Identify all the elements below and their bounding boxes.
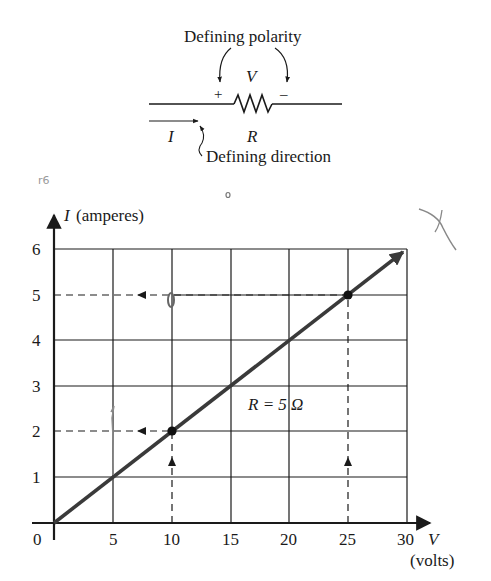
x-axis-symbol: V <box>428 530 441 549</box>
minus-sign: – <box>279 86 288 102</box>
x-tick-labels: 0 5 10 15 20 25 30 <box>33 530 414 549</box>
pencil-mark <box>168 293 174 307</box>
circuit-diagram: Defining polarity V + – I R Defining dir… <box>149 27 342 166</box>
x-tick-0: 0 <box>33 530 42 549</box>
y-tick-labels: 6 5 4 3 2 1 <box>32 240 41 487</box>
x-tick-15: 15 <box>222 530 239 549</box>
data-point-10v-2a <box>167 426 176 435</box>
polarity-arrow-left-icon <box>220 48 231 82</box>
y-axis-units: (amperes) <box>76 206 144 225</box>
current-symbol: I <box>167 127 175 146</box>
plus-sign: + <box>214 86 222 102</box>
resistor-symbol: R <box>246 127 258 146</box>
direction-label: Defining direction <box>206 147 332 166</box>
x-tick-30: 30 <box>397 530 414 549</box>
x-tick-25: 25 <box>339 530 356 549</box>
polarity-label: Defining polarity <box>184 27 302 46</box>
y-tick-4: 4 <box>32 331 41 350</box>
pencil-dot <box>226 193 230 198</box>
figure-canvas: Defining polarity V + – I R Defining dir… <box>0 0 491 581</box>
margin-scribble: r6 <box>38 174 50 187</box>
y-axis-symbol: I <box>63 206 71 225</box>
voltage-symbol: V <box>246 67 259 86</box>
data-point-25v-5a <box>343 290 352 299</box>
resistance-label: R = 5 Ω <box>247 395 303 414</box>
y-tick-3: 3 <box>32 377 41 396</box>
polarity-arrow-right-icon <box>275 48 288 82</box>
y-tick-6: 6 <box>32 240 41 259</box>
direction-pointer-icon <box>199 126 204 156</box>
x-axis-units: (volts) <box>410 551 454 570</box>
x-tick-20: 20 <box>280 530 297 549</box>
resistor-icon <box>234 95 272 112</box>
y-tick-1: 1 <box>32 468 41 487</box>
pencil-x-stroke <box>419 209 456 250</box>
x-tick-5: 5 <box>109 530 118 549</box>
y-tick-5: 5 <box>32 286 41 305</box>
x-tick-10: 10 <box>163 530 180 549</box>
y-tick-2: 2 <box>32 422 41 441</box>
ohms-law-chart: I (amperes) <box>32 206 454 570</box>
